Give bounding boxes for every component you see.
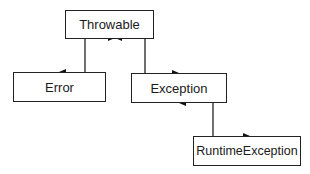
node-label: Error [45, 80, 74, 95]
node-label: Exception [150, 81, 207, 96]
node-error: Error [13, 72, 106, 102]
node-label: RuntimeException [196, 144, 297, 158]
node-runtime-exception: RuntimeException [193, 136, 301, 166]
node-label: Throwable [79, 17, 140, 32]
node-exception: Exception [131, 73, 227, 103]
node-throwable: Throwable [65, 10, 154, 39]
